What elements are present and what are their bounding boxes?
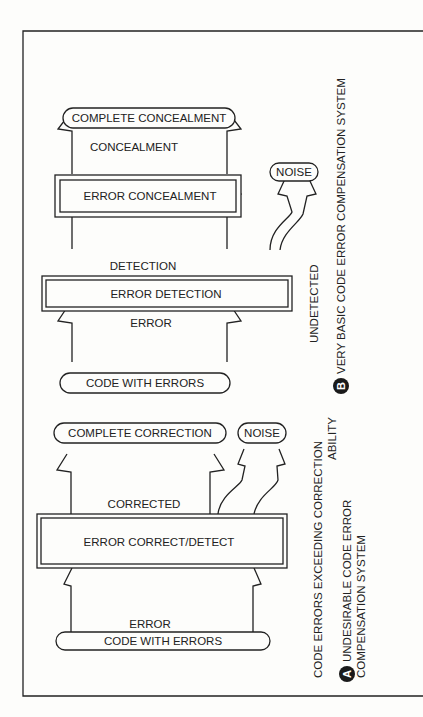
b-concealment-label: CONCEALMENT — [90, 141, 178, 153]
a-output-node-label: COMPLETE CORRECTION — [68, 427, 212, 439]
b-noise-path-left — [270, 179, 292, 250]
a-error-label: ERROR — [129, 618, 171, 630]
a-process-box-label: ERROR CORRECT/DETECT — [84, 536, 235, 548]
a-caption-line1: UNDESIRABLE CODE ERROR — [341, 500, 353, 662]
b-badge-letter: B — [335, 382, 347, 390]
diagram-b: COMPLETE CONCEALMENT CONCEALMENT ERROR C… — [42, 78, 349, 394]
b-caption: VERY BASIC CODE ERROR COMPENSATION SYSTE… — [335, 78, 347, 374]
diagram-canvas: COMPLETE CONCEALMENT CONCEALMENT ERROR C… — [0, 0, 423, 717]
a-badge-letter: A — [341, 670, 353, 678]
b-arrow-right-bottom — [227, 306, 241, 362]
b-detection-label: DETECTION — [110, 260, 176, 272]
a-noise-path-left — [218, 449, 245, 514]
a-arrow-right-lower — [253, 568, 261, 632]
a-corrected-label: CORRECTED — [108, 498, 181, 510]
a-arrow-left-lower — [64, 568, 72, 632]
a-noise-label: NOISE — [244, 427, 280, 439]
b-error-label: ERROR — [130, 317, 172, 329]
b-detection-box-label: ERROR DETECTION — [110, 288, 221, 300]
a-arrow-left-upper — [57, 454, 71, 514]
a-side-note-line2: ABILITY — [326, 417, 338, 460]
b-noise-label: NOISE — [276, 166, 312, 178]
diagram-a: COMPLETE CORRECTION NOISE CORRECTED ERRO… — [37, 417, 367, 682]
b-undetected-note: UNDETECTED — [308, 264, 320, 343]
b-concealment-box-label: ERROR CONCEALMENT — [84, 190, 217, 202]
b-arrow-left-bottom — [58, 306, 72, 362]
b-input-node-label: CODE WITH ERRORS — [86, 377, 205, 389]
b-noise-path-right — [280, 179, 316, 250]
a-input-node-label: CODE WITH ERRORS — [104, 635, 223, 647]
b-output-node-label: COMPLETE CONCEALMENT — [72, 112, 227, 124]
a-caption-line2: COMPENSATION SYSTEM — [355, 535, 367, 678]
a-noise-path-right — [254, 449, 285, 514]
a-side-note-line1: CODE ERRORS EXCEEDING CORRECTION — [312, 441, 324, 678]
a-arrow-right-upper — [210, 454, 224, 514]
